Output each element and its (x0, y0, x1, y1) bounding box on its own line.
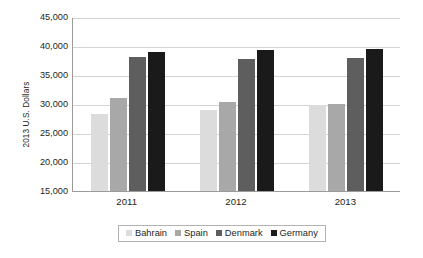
legend-swatch-icon (271, 230, 277, 236)
bar (366, 49, 383, 191)
plot-area (72, 18, 400, 192)
x-axis-tick-label: 2013 (291, 196, 400, 207)
legend-label: Bahrain (135, 228, 167, 238)
bar-chart: 2013 U.S. Dollars 45,00040,00035,00030,0… (0, 0, 423, 258)
bar-group (182, 18, 291, 191)
bar (309, 105, 326, 191)
bar (328, 104, 345, 191)
bar (91, 114, 108, 191)
bar (148, 52, 165, 191)
legend-swatch-icon (126, 230, 132, 236)
chart-legend: BahrainSpainDenmarkGermany (118, 225, 326, 242)
bar (257, 50, 274, 191)
y-axis-tick-label: 25,000 (18, 129, 68, 138)
x-axis-tick-label: 2011 (72, 196, 181, 207)
y-axis-tick-label: 15,000 (18, 187, 68, 196)
x-axis-tick-label: 2012 (181, 196, 290, 207)
bar (110, 98, 127, 191)
bar (219, 102, 236, 191)
bar-group (73, 18, 182, 191)
bar-group (291, 18, 400, 191)
bar (129, 57, 146, 191)
legend-label: Spain (184, 228, 208, 238)
gridline (73, 192, 400, 193)
y-axis-tick-label: 45,000 (18, 13, 68, 22)
legend-label: Germany (280, 228, 318, 238)
legend-swatch-icon (175, 230, 181, 236)
bar (238, 59, 255, 191)
y-axis-tick-label: 35,000 (18, 71, 68, 80)
bar (347, 58, 364, 191)
x-axis-tick-labels: 201120122013 (72, 196, 400, 207)
legend-entry[interactable]: Bahrain (126, 228, 167, 238)
legend-label: Denmark (225, 228, 263, 238)
legend-entry[interactable]: Germany (271, 228, 318, 238)
y-axis-tick-labels: 45,00040,00035,00030,00025,00020,00015,0… (18, 18, 68, 192)
bars-layer (73, 18, 400, 191)
y-axis-tick-label: 30,000 (18, 100, 68, 109)
legend-swatch-icon (216, 230, 222, 236)
y-axis-tick-label: 40,000 (18, 42, 68, 51)
y-axis-tick-label: 20,000 (18, 158, 68, 167)
bar (200, 110, 217, 191)
legend-entry[interactable]: Spain (175, 228, 208, 238)
legend-entry[interactable]: Denmark (216, 228, 263, 238)
